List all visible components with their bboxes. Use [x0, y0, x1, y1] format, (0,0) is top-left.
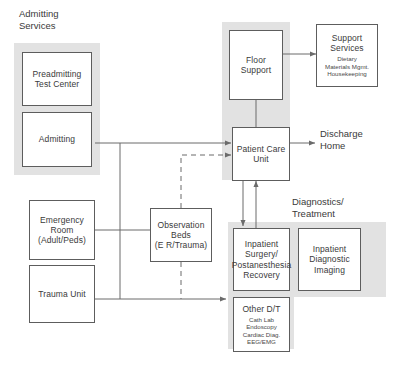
terminal-discharge-home: Discharge Home — [320, 128, 392, 151]
node-label: Admitting — [39, 134, 75, 144]
flow-diagram: Admitting Services Diagnostics/ Treatmen… — [0, 0, 395, 371]
node-label: Floor Support — [241, 55, 271, 75]
heading-admitting-services: Admitting Services — [19, 8, 109, 31]
node-inpatient-surgery[interactable]: Inpatient Surgery/ Postanesthesia Recove… — [233, 228, 290, 291]
node-label: Emergency Room (Adult/Peds) — [38, 215, 86, 245]
node-emergency-room[interactable]: Emergency Room (Adult/Peds) — [29, 200, 95, 260]
node-trauma-unit[interactable]: Trauma Unit — [29, 265, 95, 323]
node-sublabel: Cath Lab Endoscopy Cardiac Diag. EEG/EMG — [243, 316, 281, 346]
heading-diagnostics-treatment: Diagnostics/ Treatment — [292, 196, 392, 219]
node-label: Trauma Unit — [38, 289, 86, 299]
node-label: Other D/T — [242, 304, 280, 314]
node-admitting[interactable]: Admitting — [22, 112, 92, 167]
node-patient-care-unit[interactable]: Patient Care Unit — [232, 127, 290, 181]
node-floor-support[interactable]: Floor Support — [229, 30, 283, 100]
node-other-dt[interactable]: Other D/T Cath Lab Endoscopy Cardiac Dia… — [233, 297, 290, 352]
node-support-services[interactable]: Support Services Dietary Materials Mgmt.… — [316, 24, 378, 87]
node-label: Inpatient Diagnostic Imaging — [309, 244, 350, 274]
edge-observation-to-patient-care-dashed — [181, 155, 231, 208]
node-label: Observation Beds (E R/Trauma) — [155, 220, 207, 250]
node-preadmitting-test-center[interactable]: Preadmitting Test Center — [22, 52, 92, 106]
node-label: Support Services — [330, 33, 363, 53]
node-label: Preadmitting Test Center — [33, 69, 82, 89]
node-label: Patient Care Unit — [237, 144, 285, 164]
node-sublabel: Dietary Materials Mgmt. Housekeeping — [325, 55, 369, 77]
node-inpatient-diagnostic-imaging[interactable]: Inpatient Diagnostic Imaging — [298, 228, 361, 291]
node-observation-beds[interactable]: Observation Beds (E R/Trauma) — [150, 208, 212, 262]
node-label: Inpatient Surgery/ Postanesthesia Recove… — [232, 239, 292, 279]
